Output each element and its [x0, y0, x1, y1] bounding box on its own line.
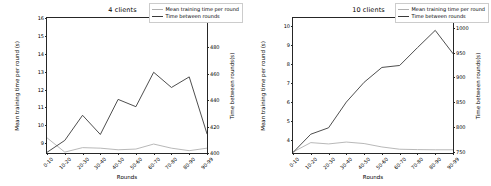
y-axis-left-tick-mark [45, 54, 47, 55]
legend-item-time-between-rounds: Time between rounds [152, 13, 239, 20]
y-axis-left-tick-mark [45, 125, 47, 126]
y-axis-right-tick-label: 900 [456, 74, 466, 80]
y-axis-right-tick-mark [207, 127, 209, 128]
x-axis-tick-label: 10-20 [57, 156, 72, 171]
x-axis-tick-mark [171, 153, 172, 155]
x-axis-tick-label: 0-10 [288, 156, 300, 168]
y-axis-right-tick-label: 400 [210, 150, 220, 156]
y-axis-left-tick-mark [291, 83, 293, 84]
legend-line-swatch-icon [398, 9, 409, 10]
x-axis-tick-label: 80-90 [428, 156, 443, 171]
x-axis-tick-mark [311, 153, 312, 155]
y-axis-left-tick-label: 11 [38, 104, 44, 110]
y-axis-right-label-text: Time between rounds(s) [475, 52, 481, 119]
y-axis-right-tick-mark [453, 77, 455, 78]
x-axis-tick-label: 80-90 [182, 156, 197, 171]
x-axis-label: Rounds [292, 174, 454, 180]
x-axis-tick-label: 60-70 [146, 156, 161, 171]
y-axis-left-label-text: Mean training time per round (s) [14, 41, 20, 131]
y-axis-left-tick-mark [291, 121, 293, 122]
y-axis-right-tick-mark [207, 47, 209, 48]
y-axis-right-tick-mark [207, 100, 209, 101]
x-axis-tick-label: 60-70 [392, 156, 407, 171]
y-axis-left-tick-mark [45, 18, 47, 19]
y-axis-left-tick-mark [45, 72, 47, 73]
y-axis-right-tick-label: 750 [456, 149, 466, 155]
x-axis-tick-mark [207, 153, 208, 155]
plot-area: 4567891075080085090095010000-1010-2020-3… [292, 17, 454, 154]
y-axis-left-tick-label: 10 [38, 122, 44, 128]
x-axis-tick-mark [435, 153, 436, 155]
x-axis-tick-label: 30-40 [339, 156, 354, 171]
legend-item-time-between-rounds: Time between rounds [398, 13, 485, 20]
x-axis-tick-mark [329, 153, 330, 155]
x-axis-tick-label: 50-60 [129, 156, 144, 171]
legend-label: Time between rounds [166, 13, 220, 20]
x-axis-tick-mark [65, 153, 66, 155]
y-axis-left-tick-mark [291, 102, 293, 103]
y-axis-right-tick-mark [453, 127, 455, 128]
y-axis-right-tick-mark [453, 102, 455, 103]
x-axis-tick-mark [417, 153, 418, 155]
y-axis-left-tick-mark [291, 140, 293, 141]
plot-lines [293, 18, 453, 153]
y-axis-left-tick-mark [45, 107, 47, 108]
y-axis-right-label: Time between rounds(s) [473, 17, 483, 154]
y-axis-left-tick-label: 8 [287, 61, 290, 67]
legend: Mean training time per round Time betwee… [395, 3, 489, 23]
x-axis-tick-label: 30-40 [93, 156, 108, 171]
x-axis-tick-label: 70-80 [410, 156, 425, 171]
x-axis-tick-label: 90-99 [446, 156, 461, 171]
legend-item-mean-training-time: Mean training time per round [152, 6, 239, 13]
y-axis-left-tick-label: 16 [38, 15, 44, 21]
x-axis-tick-mark [293, 153, 294, 155]
legend-label: Time between rounds [412, 13, 466, 20]
y-axis-left-tick-label: 15 [38, 33, 44, 39]
x-axis-tick-label: 40-50 [111, 156, 126, 171]
y-axis-left-label: Mean training time per round (s) [12, 17, 22, 154]
x-axis-tick-mark [400, 153, 401, 155]
y-axis-left-tick-mark [291, 45, 293, 46]
x-axis-tick-mark [118, 153, 119, 155]
x-axis-label: Rounds [46, 174, 208, 180]
legend-item-mean-training-time: Mean training time per round [398, 6, 485, 13]
x-axis-tick-mark [382, 153, 383, 155]
y-axis-left-tick-mark [291, 26, 293, 27]
y-axis-right-tick-label: 850 [456, 99, 466, 105]
y-axis-right-label: Time between rounds(s) [227, 17, 237, 154]
plot-lines [47, 18, 207, 153]
y-axis-left-tick-mark [291, 64, 293, 65]
y-axis-left-tick-label: 13 [38, 69, 44, 75]
x-axis-tick-label: 0-10 [42, 156, 54, 168]
x-axis-tick-mark [100, 153, 101, 155]
plot-area: 9101112131415164004204404604805000-1010-… [46, 17, 208, 154]
y-axis-left-tick-label: 7 [287, 80, 290, 86]
x-axis-tick-label: 90-99 [200, 156, 215, 171]
x-axis-tick-label: 10-20 [303, 156, 318, 171]
y-axis-left-tick-label: 9 [287, 42, 290, 48]
y-axis-left-label: Mean training time per round (s) [258, 17, 268, 154]
y-axis-right-tick-label: 950 [456, 50, 466, 56]
x-axis-tick-mark [83, 153, 84, 155]
legend-label: Mean training time per round [166, 6, 239, 13]
x-axis-tick-label: 50-60 [375, 156, 390, 171]
y-axis-right-tick-mark [207, 74, 209, 75]
y-axis-left-tick-label: 12 [38, 87, 44, 93]
y-axis-left-tick-label: 10 [284, 23, 290, 29]
panel-4-clients: 4 clients Mean training time per round (… [0, 0, 245, 186]
legend-label: Mean training time per round [412, 6, 485, 13]
x-axis-tick-mark [189, 153, 190, 155]
legend-line-swatch-icon [398, 16, 409, 17]
x-axis-tick-label: 40-50 [357, 156, 372, 171]
y-axis-left-tick-label: 9 [41, 140, 44, 146]
x-axis-tick-mark [136, 153, 137, 155]
y-axis-left-tick-mark [45, 90, 47, 91]
x-axis-tick-mark [154, 153, 155, 155]
x-axis-tick-mark [364, 153, 365, 155]
y-axis-right-tick-label: 480 [210, 44, 220, 50]
y-axis-right-tick-label: 420 [210, 124, 220, 130]
x-axis-tick-mark [346, 153, 347, 155]
y-axis-left-tick-label: 14 [38, 51, 44, 57]
x-axis-tick-mark [47, 153, 48, 155]
x-axis-tick-mark [453, 153, 454, 155]
